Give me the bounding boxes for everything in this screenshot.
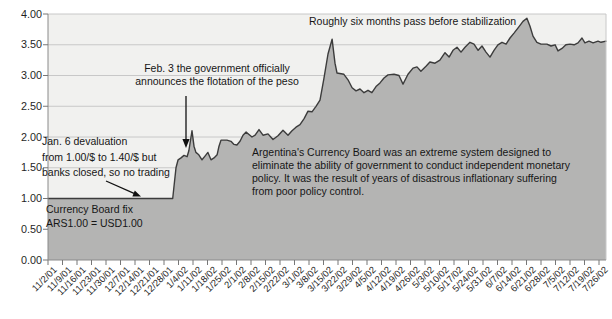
y-axis-label: 1.00	[0, 192, 42, 204]
annotation-flotation: Feb. 3 the government officially announc…	[116, 62, 318, 88]
y-axis-label: 1.50	[0, 161, 42, 173]
y-axis-label: 2.50	[0, 100, 42, 112]
y-axis-label: 0.50	[0, 223, 42, 235]
y-axis-label: 2.00	[0, 131, 42, 143]
y-axis-label: 4.00	[0, 8, 42, 20]
annotation-currency-board-note: Argentina's Currency Board was an extrem…	[252, 146, 570, 198]
annotation-currency-board-fix: Currency Board fix ARS1.00 = USD1.00	[46, 202, 143, 230]
annotation-devaluation: Jan. 6 devaluation from 1.00/$ to 1.40/$…	[42, 134, 170, 181]
annotation-stabilization: Roughly six months pass before stabiliza…	[309, 15, 516, 28]
y-axis-label: 0.00	[0, 254, 42, 266]
y-axis-label: 3.00	[0, 69, 42, 81]
y-axis-label: 3.50	[0, 38, 42, 50]
peso-exchange-rate-chart: 0.000.501.001.502.002.503.003.504.00 11/…	[0, 0, 612, 319]
